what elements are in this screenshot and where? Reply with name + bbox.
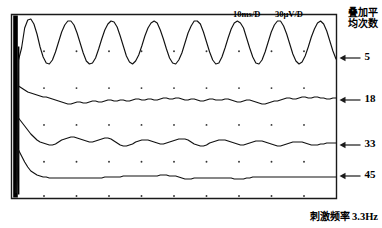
trace-value-label-45: 45 bbox=[365, 169, 376, 181]
legend-title: 叠加平 均次数 bbox=[348, 8, 378, 29]
trace-label-arrows bbox=[340, 55, 361, 179]
trace-value-label-18: 18 bbox=[365, 93, 376, 105]
figure-caption: 刺激频率 3.3Hz bbox=[310, 211, 378, 223]
legend-title-line-2: 均次数 bbox=[348, 19, 378, 30]
scale-amplitude-label: 30μV/D bbox=[275, 10, 303, 19]
caption-text: 刺激频率 bbox=[310, 211, 350, 222]
trace-value-label-33: 33 bbox=[365, 138, 376, 150]
trace-5 bbox=[16, 19, 336, 193]
trace-33 bbox=[16, 118, 336, 193]
caption-frequency: 3.3Hz bbox=[352, 211, 378, 222]
scale-time-label: 10ms/D bbox=[233, 10, 260, 19]
trace-value-label-5: 5 bbox=[365, 51, 371, 63]
grid-dots bbox=[43, 50, 305, 197]
trace-45 bbox=[16, 150, 336, 193]
trace-group bbox=[16, 19, 336, 193]
eeg-waveform-plot bbox=[0, 0, 382, 228]
legend-title-line-1: 叠加平 bbox=[348, 8, 378, 19]
plot-frame bbox=[12, 15, 337, 199]
figure-root: 10ms/D 30μV/D 叠加平 均次数 刺激频率 3.3Hz 5183345 bbox=[0, 0, 382, 228]
